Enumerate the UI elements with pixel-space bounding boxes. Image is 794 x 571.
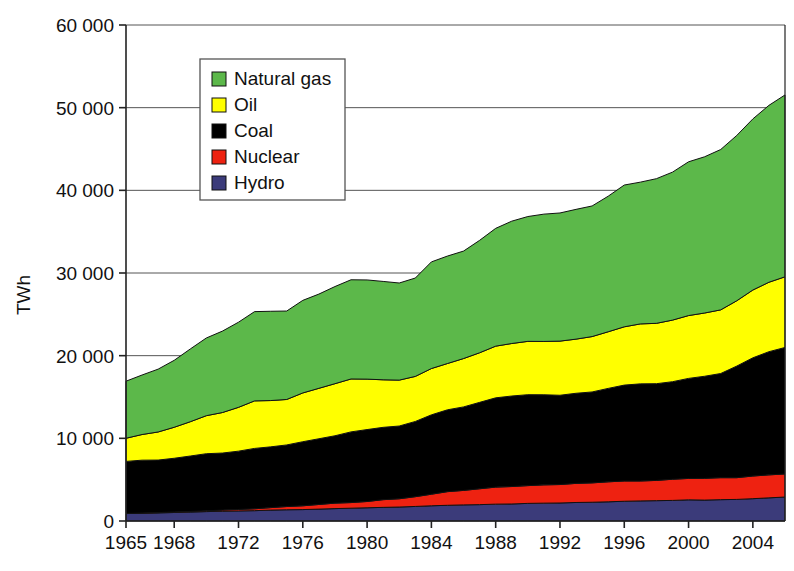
legend-label-natural-gas: Natural gas bbox=[234, 68, 331, 89]
legend-swatch-nuclear bbox=[212, 150, 226, 164]
y-tick-label-30000: 30 000 bbox=[56, 263, 114, 284]
legend-label-coal: Coal bbox=[234, 120, 273, 141]
x-tick-label-1992: 1992 bbox=[539, 532, 581, 553]
legend-swatch-oil bbox=[212, 98, 226, 112]
y-tick-label-50000: 50 000 bbox=[56, 98, 114, 119]
x-tick-label-1996: 1996 bbox=[603, 532, 645, 553]
y-tick-label-40000: 40 000 bbox=[56, 180, 114, 201]
legend-label-nuclear: Nuclear bbox=[234, 146, 300, 167]
legend: Natural gasOilCoalNuclearHydro bbox=[200, 59, 345, 200]
x-tick-label-2004: 2004 bbox=[732, 532, 775, 553]
x-tick-label-1972: 1972 bbox=[217, 532, 259, 553]
y-tick-label-60000: 60 000 bbox=[56, 15, 114, 36]
legend-label-hydro: Hydro bbox=[234, 172, 285, 193]
legend-swatch-natural-gas bbox=[212, 72, 226, 86]
legend-label-oil: Oil bbox=[234, 94, 257, 115]
legend-swatch-coal bbox=[212, 124, 226, 138]
x-tick-label-1988: 1988 bbox=[475, 532, 517, 553]
y-tick-label-0: 0 bbox=[103, 511, 114, 532]
x-tick-label-1976: 1976 bbox=[282, 532, 324, 553]
y-tick-label-10000: 10 000 bbox=[56, 428, 114, 449]
stacked-area-chart: 010 00020 00030 00040 00050 00060 000 19… bbox=[0, 0, 794, 571]
legend-swatch-hydro bbox=[212, 176, 226, 190]
x-tick-label-1980: 1980 bbox=[346, 532, 388, 553]
x-tick-label-1965: 1965 bbox=[105, 532, 147, 553]
chart-container: 010 00020 00030 00040 00050 00060 000 19… bbox=[0, 0, 794, 571]
y-axis-title: TWh bbox=[13, 275, 34, 315]
x-tick-label-2000: 2000 bbox=[667, 532, 709, 553]
y-tick-label-20000: 20 000 bbox=[56, 346, 114, 367]
x-tick-label-1984: 1984 bbox=[410, 532, 453, 553]
x-tick-label-1968: 1968 bbox=[153, 532, 195, 553]
